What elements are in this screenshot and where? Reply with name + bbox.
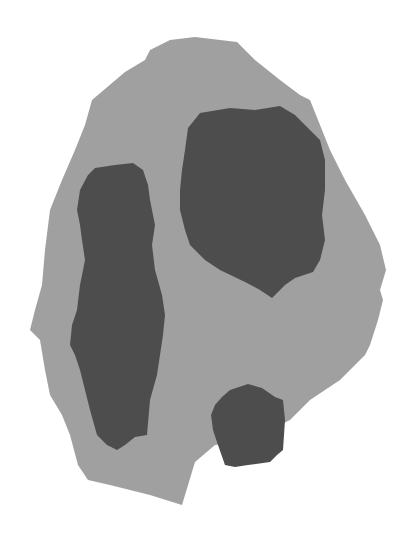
segmentation-figure bbox=[0, 0, 413, 544]
